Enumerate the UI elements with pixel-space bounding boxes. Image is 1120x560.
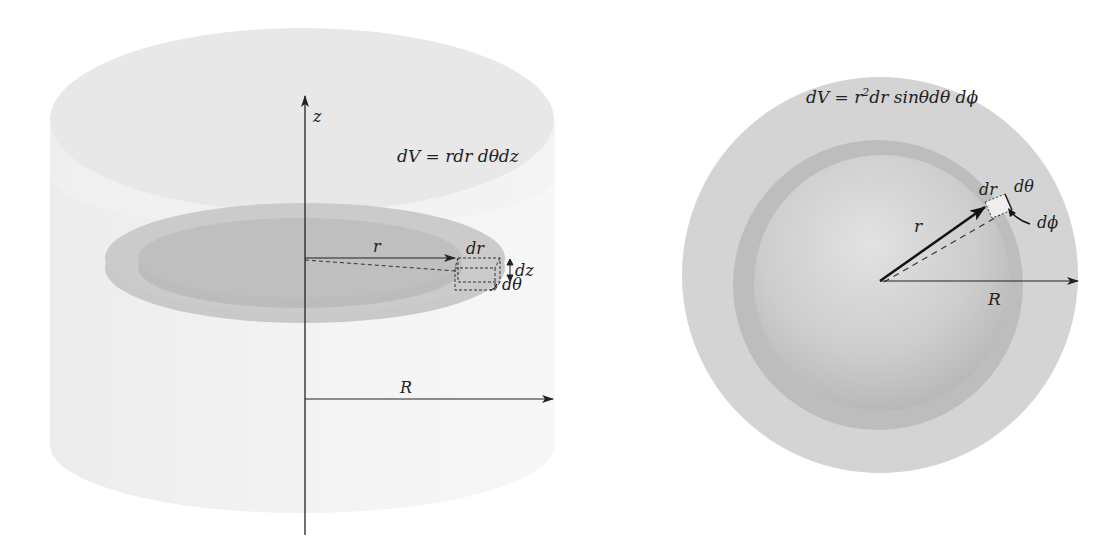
sphere-core [754, 155, 1010, 411]
cylinder-top-face [50, 28, 554, 212]
sphere-R-label: R [987, 289, 1001, 309]
cylinder-volume-formula: dV = rdr dθdz [397, 146, 520, 166]
cylinder-r-label: r [373, 237, 382, 256]
cylinder-dr-label: dr [466, 239, 485, 258]
sphere-r-label: r [914, 216, 923, 236]
sphere-dtheta-label: dθ [1014, 177, 1034, 196]
sphere-panel: dV = r2dr sinθdθ dϕ r dr dθ dϕ R [682, 77, 1078, 473]
cylinder-dz-label: dz [515, 261, 534, 280]
sphere-volume-formula: dV = r2dr sinθdθ dϕ [806, 86, 979, 107]
z-axis-label: z [312, 107, 322, 126]
sphere-dphi-label: dϕ [1037, 213, 1058, 232]
cylinder-R-label: R [399, 378, 412, 397]
sphere-dr-label: dr [979, 180, 998, 199]
coordinate-volume-diagram: z dV = rdr dθdz r dr dθ dz R dV = r2dr s… [0, 0, 1120, 560]
cylinder-panel: z dV = rdr dθdz r dr dθ dz R [50, 28, 555, 535]
